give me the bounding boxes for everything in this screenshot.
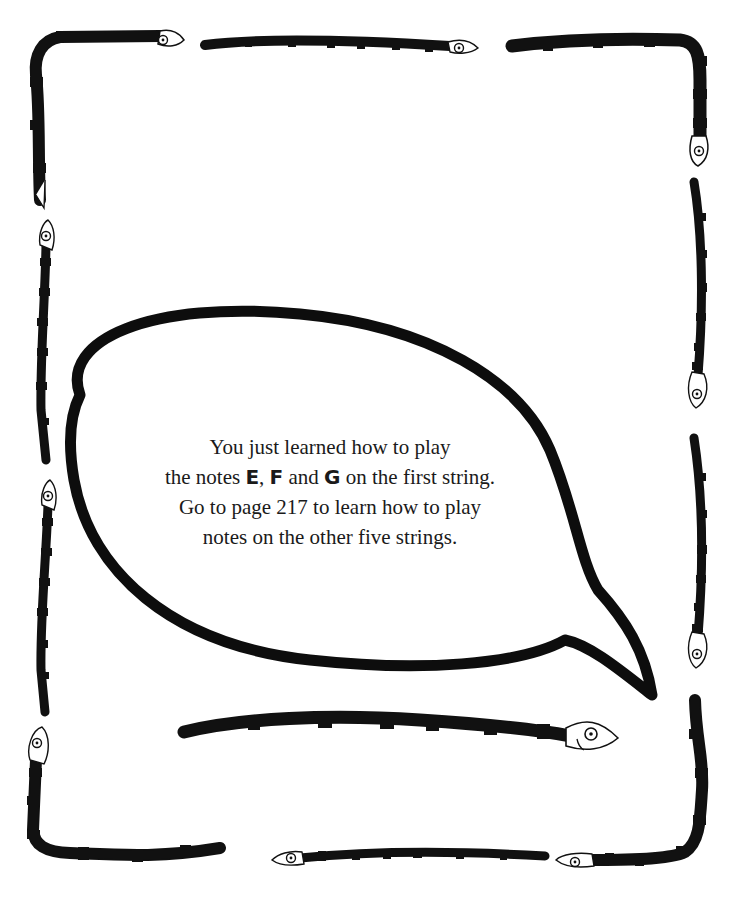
snake-center	[184, 712, 618, 750]
snake-top-middle	[205, 37, 478, 53]
message-line-1: You just learned how to play	[120, 432, 540, 462]
message-line-2-before: the notes	[165, 465, 245, 489]
note-label-f: F	[270, 465, 284, 489]
snake-right-upper	[689, 182, 707, 408]
separator: and	[283, 465, 324, 489]
snake-top-left	[30, 30, 184, 208]
note-label-g: G	[324, 465, 340, 489]
message-line-2: the notes E, F and G on the first string…	[120, 462, 540, 492]
speech-bubble-text: You just learned how to play the notes E…	[120, 432, 540, 552]
snake-bottom-middle	[272, 848, 545, 865]
snake-left-upper	[36, 220, 54, 460]
message-line-4: notes on the other five strings.	[120, 522, 540, 552]
separator: ,	[259, 465, 270, 489]
message-line-2-after: on the first string.	[341, 465, 496, 489]
snake-top-right	[512, 34, 708, 166]
snake-left-lower	[37, 480, 56, 712]
snake-right-lower	[689, 438, 707, 668]
message-line-3: Go to page 217 to learn how to play	[120, 492, 540, 522]
note-label-e: E	[245, 465, 259, 489]
snake-bottom-left	[27, 727, 220, 862]
